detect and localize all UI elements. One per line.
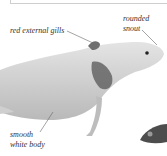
label-white-body: white body <box>10 140 45 149</box>
label-snout: snout <box>123 24 140 33</box>
label-red-external-gills: red external gills <box>10 26 64 35</box>
label-smooth: smooth <box>10 130 33 139</box>
eye <box>145 51 149 55</box>
label-rounded: rounded <box>123 14 149 23</box>
axolotl-body <box>0 42 164 120</box>
second-animal-head <box>140 124 167 143</box>
